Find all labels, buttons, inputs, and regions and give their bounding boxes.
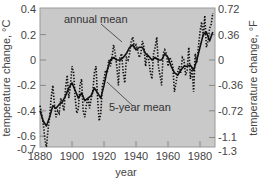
x-tick-label: 1940 xyxy=(124,150,148,162)
left-axis-labels: 0.40.20-0.2-0.4-0.6-0.7 xyxy=(17,3,36,155)
x-axis-labels: 188019001920194019601980 xyxy=(28,150,212,162)
five-year-mean-label: 5-year mean xyxy=(109,101,171,113)
annual-mean-label: annual mean xyxy=(64,13,128,25)
y-tick-label-left: 0.4 xyxy=(21,3,36,15)
x-tick-label: 1980 xyxy=(188,150,212,162)
y-tick-label-right: -1.1 xyxy=(218,131,237,143)
y-tick-label-right: 0 xyxy=(218,54,224,66)
y-axis-title-right: temperature change, °F xyxy=(247,20,259,136)
x-tick-label: 1900 xyxy=(60,150,84,162)
y-tick-label-left: -0.2 xyxy=(17,79,36,91)
y-tick-label-left: 0.2 xyxy=(21,29,36,41)
y-axis-title-left: temperature change, °C xyxy=(0,19,12,136)
x-tick-label: 1920 xyxy=(92,150,116,162)
right-axis-labels: 0.720.360-0.36-0.72-1.1-1.3 xyxy=(218,3,243,157)
y-tick-label-left: -0.4 xyxy=(17,105,36,117)
y-tick-label-right: 0.36 xyxy=(218,29,239,41)
y-tick-label-right: -1.3 xyxy=(218,145,237,157)
y-tick-label-left: -0.6 xyxy=(17,130,36,142)
x-axis-title: year xyxy=(115,166,137,178)
x-tick-label: 1960 xyxy=(156,150,180,162)
y-tick-label-right: 0.72 xyxy=(218,3,239,15)
y-tick-label-right: -0.36 xyxy=(218,79,243,91)
x-tick-label: 1880 xyxy=(28,150,52,162)
temperature-chart: annual mean 5-year mean 0.40.20-0.2-0.4-… xyxy=(0,0,261,181)
y-tick-label-right: -0.72 xyxy=(218,105,243,117)
y-tick-label-left: 0 xyxy=(30,54,36,66)
